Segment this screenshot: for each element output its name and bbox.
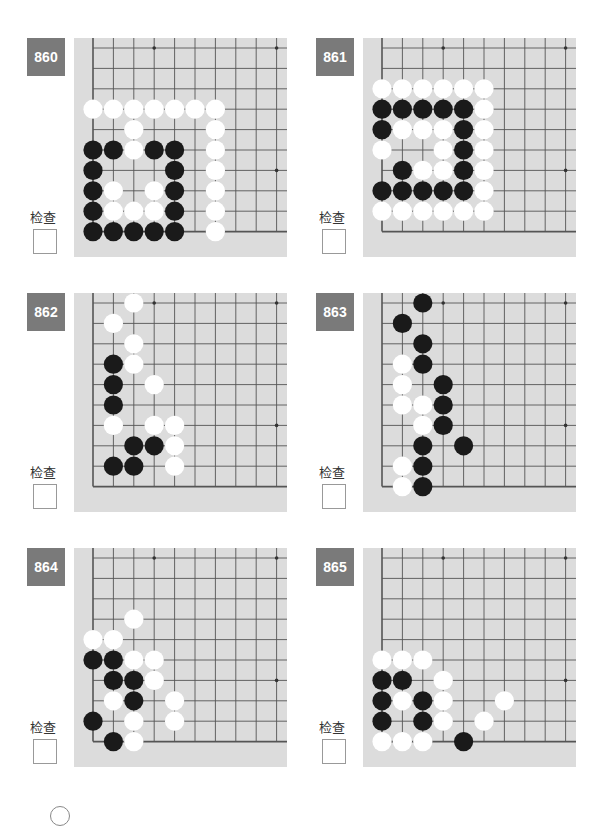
black-stone — [454, 100, 473, 119]
white-stone — [104, 691, 123, 710]
white-stone — [104, 181, 123, 200]
check-box[interactable] — [322, 739, 346, 764]
check-label: 检查 — [30, 462, 56, 481]
black-stone — [454, 181, 473, 200]
star-point-icon — [275, 556, 279, 560]
star-point-icon — [152, 301, 156, 305]
white-stone — [145, 375, 164, 394]
white-stone — [124, 140, 143, 159]
black-stone — [413, 457, 432, 476]
problem-number-badge: 865 — [316, 548, 354, 586]
black-stone — [83, 650, 102, 669]
star-point-icon — [564, 301, 568, 305]
check-label: 检查 — [319, 207, 345, 226]
go-problem-863: 863 检查 — [316, 293, 591, 518]
white-stone — [413, 732, 432, 751]
star-point-icon — [275, 679, 279, 683]
black-stone — [372, 100, 391, 119]
white-stone — [124, 100, 143, 119]
star-point-icon — [275, 301, 279, 305]
white-stone — [145, 650, 164, 669]
white-stone — [165, 457, 184, 476]
white-stone — [165, 416, 184, 435]
problem-number-badge: 861 — [316, 38, 354, 76]
white-stone — [434, 691, 453, 710]
black-stone — [454, 732, 473, 751]
white-stone — [413, 395, 432, 414]
black-stone — [145, 222, 164, 241]
white-stone — [185, 100, 204, 119]
black-stone — [104, 457, 123, 476]
white-stone — [83, 100, 102, 119]
check-box[interactable] — [33, 229, 57, 254]
black-stone — [165, 161, 184, 180]
black-stone — [124, 436, 143, 455]
white-stone — [206, 202, 225, 221]
page-number-circle — [50, 806, 70, 826]
go-problem-864: 864 检查 — [27, 548, 302, 773]
star-point-icon — [564, 46, 568, 50]
white-stone — [413, 416, 432, 435]
white-stone — [393, 457, 412, 476]
white-stone — [393, 691, 412, 710]
star-point-icon — [441, 301, 445, 305]
white-stone — [124, 293, 143, 312]
white-stone — [413, 120, 432, 139]
black-stone — [393, 671, 412, 690]
problem-number-badge: 864 — [27, 548, 65, 586]
go-board — [363, 38, 576, 257]
white-stone — [124, 650, 143, 669]
board-grid — [74, 38, 287, 257]
white-stone — [165, 691, 184, 710]
go-board — [363, 548, 576, 767]
black-stone — [413, 355, 432, 374]
star-point-icon — [275, 424, 279, 428]
white-stone — [145, 202, 164, 221]
black-stone — [165, 140, 184, 159]
black-stone — [413, 100, 432, 119]
black-stone — [104, 732, 123, 751]
check-label: 检查 — [30, 717, 56, 736]
check-box[interactable] — [322, 484, 346, 509]
go-problem-861: 861 检查 — [316, 38, 591, 263]
white-stone — [145, 181, 164, 200]
white-stone — [104, 100, 123, 119]
go-board — [363, 293, 576, 512]
black-stone — [372, 671, 391, 690]
white-stone — [206, 222, 225, 241]
white-stone — [145, 416, 164, 435]
white-stone — [474, 712, 493, 731]
white-stone — [83, 630, 102, 649]
white-stone — [474, 202, 493, 221]
star-point-icon — [152, 46, 156, 50]
black-stone — [83, 140, 102, 159]
white-stone — [124, 334, 143, 353]
white-stone — [474, 181, 493, 200]
white-stone — [434, 671, 453, 690]
white-stone — [413, 650, 432, 669]
white-stone — [434, 79, 453, 98]
black-stone — [104, 222, 123, 241]
check-box[interactable] — [33, 739, 57, 764]
white-stone — [434, 120, 453, 139]
white-stone — [372, 732, 391, 751]
board-grid — [363, 38, 576, 257]
check-label: 检查 — [319, 717, 345, 736]
white-stone — [413, 161, 432, 180]
white-stone — [372, 79, 391, 98]
white-stone — [393, 120, 412, 139]
white-stone — [434, 202, 453, 221]
check-box[interactable] — [33, 484, 57, 509]
black-stone — [145, 140, 164, 159]
black-stone — [165, 181, 184, 200]
black-stone — [372, 120, 391, 139]
white-stone — [393, 477, 412, 496]
black-stone — [372, 712, 391, 731]
white-stone — [165, 436, 184, 455]
check-box[interactable] — [322, 229, 346, 254]
white-stone — [434, 140, 453, 159]
black-stone — [165, 222, 184, 241]
black-stone — [372, 181, 391, 200]
white-stone — [393, 355, 412, 374]
white-stone — [413, 202, 432, 221]
